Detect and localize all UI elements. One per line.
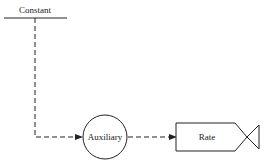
constant-label: Constant bbox=[19, 5, 52, 15]
connector-constant-to-auxiliary bbox=[35, 18, 82, 137]
rate-label: Rate bbox=[199, 132, 216, 142]
diagram-svg: Constant Auxiliary Rate bbox=[0, 0, 266, 168]
auxiliary-label: Auxiliary bbox=[88, 132, 123, 142]
diagram-canvas: Constant Auxiliary Rate bbox=[0, 0, 266, 168]
valve-icon bbox=[247, 125, 259, 149]
auxiliary-node: Auxiliary bbox=[83, 115, 127, 159]
rate-node: Rate bbox=[176, 123, 259, 151]
constant-node: Constant bbox=[4, 5, 67, 18]
